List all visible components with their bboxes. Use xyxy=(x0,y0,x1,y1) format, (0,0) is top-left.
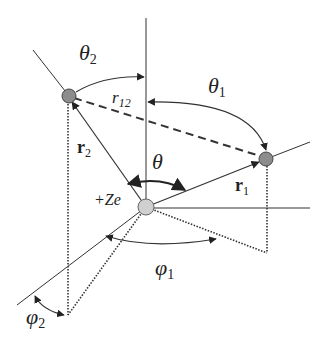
r12-label: r12 xyxy=(112,88,131,110)
theta2-label: θ2 xyxy=(79,40,97,67)
phi2-label: φ2 xyxy=(26,304,45,331)
phi1-arc xyxy=(106,236,216,244)
electron2-base-line xyxy=(68,207,146,315)
phi2-arc xyxy=(35,296,64,315)
nucleus xyxy=(138,199,154,215)
two-electron-atom-diagram: θ2 r12 θ1 r2 θ r1 +Ze φ1 φ2 xyxy=(0,0,326,343)
r1-label: r1 xyxy=(235,175,249,198)
r2-extension-line xyxy=(33,50,69,96)
theta1-label: θ1 xyxy=(208,73,226,100)
theta-label: θ xyxy=(152,149,163,174)
electron1-base-line xyxy=(146,207,267,253)
phi1-label: φ1 xyxy=(155,255,174,282)
theta-arc xyxy=(128,181,185,190)
nucleus-charge-label: +Ze xyxy=(94,191,121,208)
y-axis xyxy=(17,207,146,305)
electron-1 xyxy=(259,152,273,166)
r2-label: r2 xyxy=(77,137,91,160)
r12-dashed-line xyxy=(74,98,260,156)
theta2-arc xyxy=(76,77,144,92)
electron-2 xyxy=(62,89,76,103)
